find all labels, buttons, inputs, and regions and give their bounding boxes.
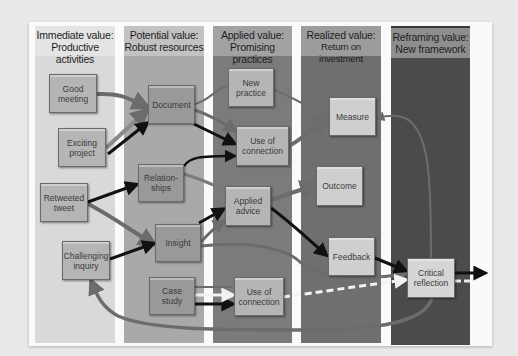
node-label: Measure bbox=[336, 112, 369, 122]
arrow-use-of-connection-to-critical-reflection-dashed bbox=[283, 280, 404, 297]
node-label: Case bbox=[162, 286, 182, 296]
node-label: connection bbox=[238, 297, 279, 307]
arrow-retweeted-to-insight bbox=[88, 204, 152, 243]
node-label: Use of bbox=[247, 287, 272, 297]
node-challenging-inquiry: Challenginginquiry bbox=[62, 241, 110, 280]
node-label: inquiry bbox=[73, 261, 98, 271]
node-label: Critical bbox=[418, 268, 444, 278]
arrow-insight-to-applied-advice bbox=[199, 210, 222, 223]
arrow-feedback-to-critical-reflection bbox=[375, 258, 404, 270]
node-document: Document bbox=[148, 85, 195, 124]
arrow-use-of-connection-to-measure bbox=[289, 120, 326, 146]
node-retweeted-tweet: Retweetedtweet bbox=[40, 183, 88, 222]
arrow-retweeted-to-relationships bbox=[88, 185, 135, 202]
arrow-good-meeting-to-document bbox=[97, 94, 145, 106]
node-label: study bbox=[162, 296, 182, 306]
node-label: Relation- bbox=[144, 173, 178, 183]
node-label: Retweeted bbox=[44, 193, 85, 203]
arrow-relationships-to-use-of-connection bbox=[184, 156, 233, 166]
node-label: New bbox=[242, 78, 259, 88]
node-label: project bbox=[69, 148, 95, 158]
node-label: practice bbox=[236, 88, 266, 98]
node-label: reflection bbox=[414, 278, 449, 288]
node-label: Outcome bbox=[322, 181, 357, 191]
node-label: Good bbox=[63, 84, 84, 94]
node-good-meeting: Goodmeeting bbox=[49, 74, 97, 113]
node-label: ships bbox=[151, 183, 171, 193]
arrow-critical-reflection-to-measure bbox=[378, 116, 431, 258]
node-label: Feedback bbox=[333, 252, 370, 262]
node-label: Insight bbox=[165, 238, 190, 248]
node-exciting-project: Excitingproject bbox=[58, 128, 106, 167]
node-new-practice: Newpractice bbox=[228, 68, 274, 107]
node-case-study: Casestudy bbox=[149, 277, 195, 315]
node-label: advice bbox=[236, 206, 261, 216]
arrow-insight-to-applied-advice-gray bbox=[201, 222, 223, 242]
arrow-applied-advice-to-outcome bbox=[271, 186, 313, 200]
node-applied-advice: Appliedadvice bbox=[225, 186, 271, 226]
node-measure: Measure bbox=[329, 97, 376, 136]
node-label: Applied bbox=[234, 196, 262, 206]
arrow-challenging-inquiry-to-insight bbox=[110, 244, 152, 259]
node-critical-reflection: Criticalreflection bbox=[407, 258, 455, 298]
node-feedback: Feedback bbox=[328, 237, 375, 276]
arrow-document-to-new-practice bbox=[195, 86, 227, 104]
node-label: Document bbox=[152, 100, 191, 110]
node-label: tweet bbox=[54, 203, 74, 213]
arrow-applied-advice-to-feedback bbox=[271, 208, 325, 254]
node-use-of-connection-bottom: Use ofconnection bbox=[234, 277, 284, 316]
node-label: Use of bbox=[250, 136, 275, 146]
node-use-of-connection-top: Use ofconnection bbox=[236, 126, 289, 166]
arrow-new-practice-to-measure bbox=[274, 90, 326, 116]
node-insight: Insight bbox=[155, 224, 201, 262]
node-label: meeting bbox=[58, 94, 88, 104]
node-label: Challenging bbox=[64, 251, 109, 261]
node-label: Exciting bbox=[67, 138, 97, 148]
arrow-relationships-to-applied-advice bbox=[184, 174, 222, 188]
node-outcome: Outcome bbox=[316, 166, 363, 206]
node-label: connection bbox=[242, 146, 283, 156]
node-relationships: Relation-ships bbox=[138, 164, 184, 202]
